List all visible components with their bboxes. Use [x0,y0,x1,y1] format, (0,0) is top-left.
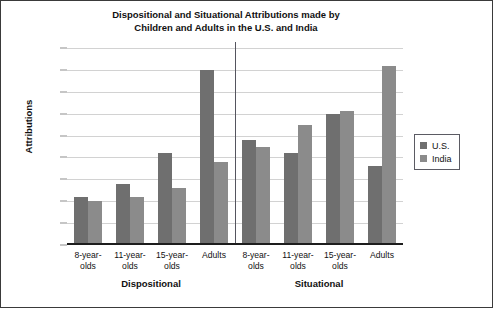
group-label: Situational [235,278,403,289]
bar-us [242,140,256,245]
x-axis-label-line: olds [109,261,151,272]
legend-item-india: India [420,152,452,165]
bar-india [340,111,354,245]
x-axis-label: 8-year-olds [235,250,277,271]
bar-us [200,70,214,245]
y-axis-tick-mark [60,48,67,49]
group-label: Dispositional [67,278,235,289]
x-axis-label-line: olds [235,261,277,272]
x-axis-label: 11-year-olds [277,250,319,271]
bar-us [284,153,298,245]
chart-title-line-2: Children and Adults in the U.S. and Indi… [61,22,391,35]
bar-us [326,114,340,245]
y-axis-tick-mark [60,157,67,158]
chart-title: Dispositional and Situational Attributio… [61,9,391,34]
x-axis-label: 15-year-olds [319,250,361,271]
bar-india [130,197,144,245]
bar-us [74,197,88,245]
chart-legend: U.S. India [414,134,460,170]
x-axis-label: Adults [361,250,403,261]
bar-india [256,147,270,246]
x-axis-label: Adults [193,250,235,261]
bar-india [382,66,396,245]
x-axis-label-line: Adults [361,250,403,261]
bar-us [116,184,130,245]
x-axis-label-line: 15-year- [151,250,193,261]
y-axis-tick-mark [60,201,67,202]
x-axis-label: 11-year-olds [109,250,151,271]
y-axis-title: Attributions [23,72,34,182]
legend-item-us: U.S. [420,139,452,152]
x-axis-label: 15-year-olds [151,250,193,271]
x-axis-label-line: olds [319,261,361,272]
x-axis-label-line: Adults [193,250,235,261]
legend-swatch-india [420,155,427,162]
x-axis-label-line: 11-year- [109,250,151,261]
y-axis-tick-mark [60,245,67,246]
chart-frame: Dispositional and Situational Attributio… [0,0,493,308]
x-axis-line [67,243,403,245]
chart-title-line-1: Dispositional and Situational Attributio… [61,9,391,22]
legend-label-us: U.S. [432,141,450,151]
group-divider [235,42,236,245]
y-axis-tick-mark [60,113,67,114]
bar-us [158,153,172,245]
x-axis-label-line: olds [277,261,319,272]
legend-label-india: India [432,154,452,164]
x-axis-label-line: 8-year- [235,250,277,261]
bar-india [214,162,228,245]
bar-india [172,188,186,245]
x-axis-label-line: 8-year- [67,250,109,261]
x-axis-label-line: 15-year- [319,250,361,261]
y-axis-tick-mark [60,69,67,70]
x-axis-label-line: 11-year- [277,250,319,261]
x-axis-label: 8-year-olds [67,250,109,271]
x-axis-label-line: olds [67,261,109,272]
y-axis-tick-mark [60,179,67,180]
legend-swatch-us [420,142,427,149]
bar-india [298,125,312,245]
plot-area: 00.050.10.150.20.250.30.350.40.45 [67,48,403,245]
bar-us [368,166,382,245]
y-axis-tick-mark [60,91,67,92]
x-axis-label-line: olds [151,261,193,272]
y-axis-tick-mark [60,135,67,136]
y-axis-tick-mark [60,223,67,224]
bar-india [88,201,102,245]
